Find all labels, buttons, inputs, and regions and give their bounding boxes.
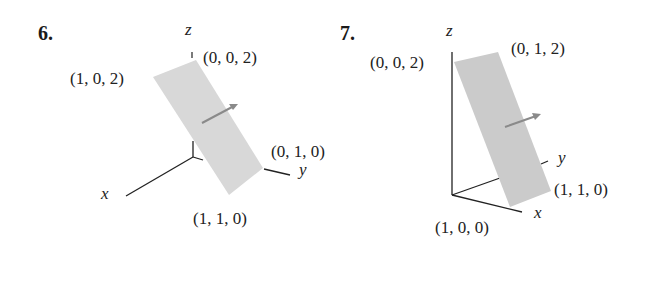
fig6-plane: [153, 60, 263, 195]
figure-6: [126, 52, 290, 196]
fig6-x-label: x: [101, 184, 109, 204]
figure-7: [452, 52, 551, 212]
fig6-y-axis-stub: [193, 157, 203, 160]
fig6-point-010: (0, 1, 0): [271, 142, 325, 162]
fig6-number: 6.: [38, 22, 53, 45]
fig6-x-axis: [126, 157, 193, 196]
fig7-y-axis: [452, 178, 500, 195]
fig7-point-100: (1, 0, 0): [435, 218, 489, 238]
fig7-number: 7.: [340, 22, 355, 45]
fig6-y-axis: [264, 169, 290, 175]
fig7-y-label: y: [558, 148, 566, 168]
fig6-y-label: y: [299, 160, 307, 180]
fig7-plane: [454, 52, 551, 207]
fig6-point-002: (0, 0, 2): [203, 48, 257, 68]
fig7-point-012: (0, 1, 2): [511, 39, 565, 59]
fig6-point-102: (1, 0, 2): [70, 69, 124, 89]
fig7-z-label: z: [446, 21, 453, 41]
fig7-point-002: (0, 0, 2): [370, 53, 424, 73]
fig6-z-label: z: [185, 20, 192, 40]
fig7-x-label: x: [534, 203, 542, 223]
fig6-point-110: (1, 1, 0): [193, 209, 247, 229]
fig7-y-axis-stub: [541, 161, 548, 164]
fig7-point-110: (1, 1, 0): [554, 180, 608, 200]
